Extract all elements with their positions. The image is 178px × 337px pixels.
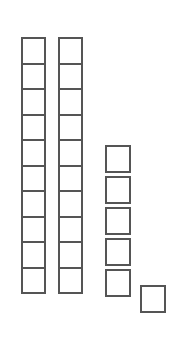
unit-square <box>105 238 131 266</box>
unit-square <box>58 216 83 244</box>
unit-square <box>21 114 46 142</box>
unit-square <box>105 176 131 204</box>
unit-square <box>21 88 46 116</box>
unit-square <box>58 114 83 142</box>
rod-column-1 <box>21 37 46 294</box>
unit-square <box>58 139 83 167</box>
unit-square <box>21 267 46 295</box>
unit-square <box>58 63 83 91</box>
base-ten-blocks-diagram <box>0 0 178 337</box>
unit-square <box>105 207 131 235</box>
unit-square <box>21 216 46 244</box>
unit-square <box>105 145 131 173</box>
unit-square <box>21 165 46 193</box>
unit-square <box>58 190 83 218</box>
unit-square <box>58 37 83 65</box>
unit-square <box>58 267 83 295</box>
single-unit-square-group <box>140 285 166 313</box>
unit-square <box>21 190 46 218</box>
unit-square <box>58 241 83 269</box>
rod-column-2 <box>58 37 83 294</box>
unit-square <box>21 63 46 91</box>
unit-square <box>21 37 46 65</box>
unit-square <box>58 88 83 116</box>
unit-square <box>21 139 46 167</box>
loose-stack-column-3 <box>105 145 131 297</box>
unit-square <box>140 285 166 313</box>
unit-square <box>58 165 83 193</box>
unit-square <box>105 269 131 297</box>
unit-square <box>21 241 46 269</box>
